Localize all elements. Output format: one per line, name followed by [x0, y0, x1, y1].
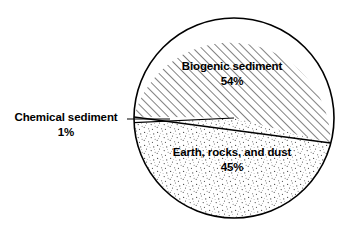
slice-label-biogenic-sediment-percent: 54% [157, 74, 307, 89]
slice-label-chemical-sediment-name: Chemical sediment [14, 111, 117, 123]
slice-label-biogenic-sediment: Biogenic sediment 54% [157, 59, 307, 89]
slice-label-earth-rocks-and-dust-name: Earth, rocks, and dust [173, 146, 292, 158]
slice-label-chemical-sediment: Chemical sediment 1% [4, 110, 128, 140]
slice-label-earth-rocks-and-dust: Earth, rocks, and dust 45% [156, 145, 308, 175]
slice-label-biogenic-sediment-name: Biogenic sediment [182, 60, 283, 72]
slice-label-earth-rocks-and-dust-percent: 45% [156, 160, 308, 175]
pie-chart-figure: Biogenic sediment 54% Earth, rocks, and … [0, 0, 342, 229]
slice-label-chemical-sediment-percent: 1% [4, 125, 128, 140]
